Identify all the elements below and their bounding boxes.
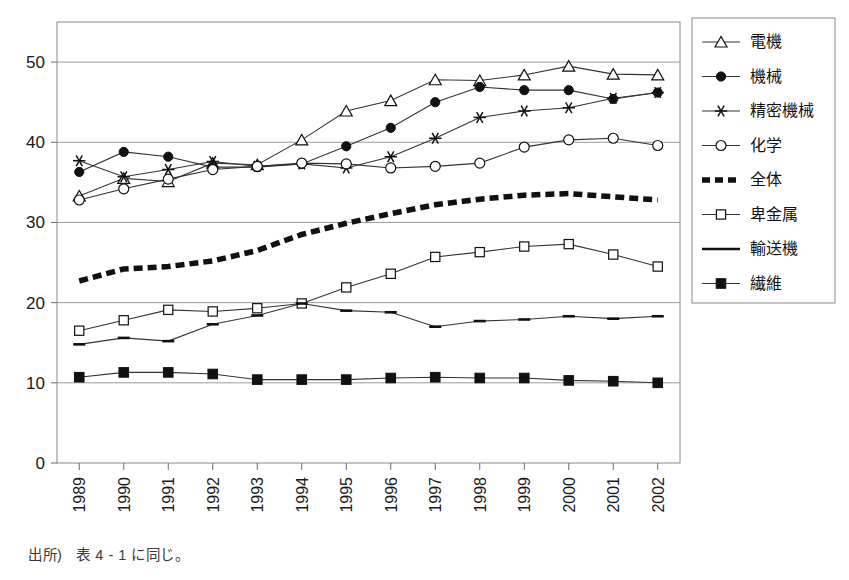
- marker-square-filled: [716, 279, 726, 289]
- x-tick-label: 1996: [383, 477, 400, 513]
- marker-circle-filled: [431, 98, 440, 107]
- marker-square-filled: [430, 372, 440, 382]
- marker-circle-filled: [119, 147, 128, 156]
- marker-square-open: [609, 250, 618, 259]
- figure-caption: 出所)表 4 - 1 に同じ。: [28, 543, 189, 564]
- x-tick-label: 1997: [427, 477, 444, 513]
- marker-square-open: [119, 316, 128, 325]
- marker-square-open: [475, 248, 484, 257]
- marker-square-open: [431, 252, 440, 261]
- caption-source-label: 出所): [28, 547, 62, 563]
- marker-circle-open: [163, 174, 173, 184]
- legend-label: 機械: [750, 68, 782, 85]
- marker-square-filled: [341, 375, 351, 385]
- legend: 電機機械精密機械化学全体卑金属輸送機繊維: [692, 18, 835, 303]
- legend-label: 精密機械: [750, 102, 814, 119]
- legend-label: 化学: [750, 137, 782, 154]
- marker-square-filled: [163, 368, 173, 378]
- y-tick-label: 20: [26, 294, 45, 313]
- marker-square-filled: [564, 376, 574, 386]
- chart-figure: 0102030405019891990199119921993199419951…: [0, 0, 849, 580]
- legend-border: [692, 18, 835, 303]
- marker-square-open: [75, 326, 84, 335]
- marker-square-filled: [297, 375, 307, 385]
- x-tick-label: 1993: [249, 477, 266, 513]
- plot-area-border: [57, 22, 680, 463]
- y-tick-label: 10: [26, 374, 45, 393]
- caption-source-text: 表 4 - 1 に同じ。: [76, 547, 189, 563]
- marker-circle-filled: [164, 152, 173, 161]
- marker-circle-open: [297, 158, 307, 168]
- marker-square-open: [564, 240, 573, 249]
- legend-label: 卑金属: [750, 206, 798, 223]
- y-tick-label: 50: [26, 53, 45, 72]
- marker-square-filled: [653, 378, 663, 388]
- marker-circle-open: [208, 165, 218, 175]
- marker-circle-open: [74, 195, 84, 205]
- y-tick-label: 40: [26, 133, 45, 152]
- marker-square-filled: [519, 373, 529, 383]
- marker-circle-open: [716, 141, 726, 151]
- x-tick-label: 1990: [116, 477, 133, 513]
- marker-square-filled: [208, 369, 218, 379]
- x-tick-label: 2001: [605, 477, 622, 513]
- x-tick-label: 1995: [338, 477, 355, 513]
- marker-square-open: [208, 307, 217, 316]
- marker-circle-open: [608, 133, 618, 143]
- marker-square-filled: [252, 375, 262, 385]
- x-tick-label: 1989: [71, 477, 88, 513]
- legend-label: 繊維: [750, 275, 782, 292]
- marker-square-open: [164, 305, 173, 314]
- marker-square-open: [253, 304, 262, 313]
- marker-circle-filled: [386, 123, 395, 132]
- marker-circle-filled: [75, 167, 84, 176]
- marker-circle-filled: [475, 82, 484, 91]
- y-tick-label: 0: [36, 454, 45, 473]
- legend-label: 全体: [750, 171, 782, 188]
- legend-label: 輸送機: [750, 240, 798, 257]
- x-axis: 1989199019911992199319941995199619971998…: [71, 463, 667, 513]
- marker-circle-open: [653, 140, 663, 150]
- x-tick-label: 2000: [561, 477, 578, 513]
- marker-square-open: [653, 262, 662, 271]
- x-tick-label: 2002: [650, 477, 667, 513]
- marker-circle-open: [564, 135, 574, 145]
- legend-label: 電機: [750, 33, 782, 50]
- marker-circle-filled: [564, 86, 573, 95]
- marker-square-filled: [74, 372, 84, 382]
- marker-circle-open: [430, 161, 440, 171]
- line-chart: 0102030405019891990199119921993199419951…: [0, 0, 849, 580]
- x-tick-label: 1991: [160, 477, 177, 513]
- plot-frame: [57, 22, 680, 463]
- marker-square-filled: [475, 373, 485, 383]
- y-tick-label: 30: [26, 213, 45, 232]
- marker-square-open: [716, 210, 725, 219]
- marker-circle-open: [119, 184, 129, 194]
- marker-circle-filled: [342, 142, 351, 151]
- marker-square-filled: [608, 376, 618, 386]
- marker-circle-filled: [520, 86, 529, 95]
- marker-circle-open: [252, 161, 262, 171]
- marker-square-open: [342, 283, 351, 292]
- marker-square-open: [386, 269, 395, 278]
- marker-circle-open: [341, 159, 351, 169]
- marker-circle-filled: [716, 72, 725, 81]
- x-tick-label: 1998: [472, 477, 489, 513]
- marker-circle-open: [475, 158, 485, 168]
- marker-square-open: [520, 242, 529, 251]
- x-tick-label: 1994: [294, 477, 311, 513]
- marker-circle-open: [519, 142, 529, 152]
- marker-square-filled: [386, 373, 396, 383]
- x-tick-label: 1992: [205, 477, 222, 513]
- marker-square-filled: [119, 368, 129, 378]
- x-tick-label: 1999: [516, 477, 533, 513]
- marker-circle-open: [386, 163, 396, 173]
